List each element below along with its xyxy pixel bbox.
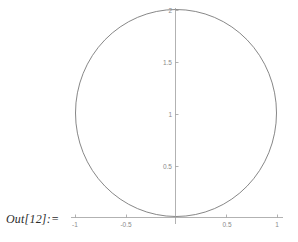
y-tick-label: 2	[168, 7, 172, 14]
plot-svg: -1 -0.5 0.5 1 0.5 1 1.5 2	[0, 0, 298, 242]
x-tick-label: -1	[72, 221, 78, 228]
x-tick-label: -0.5	[120, 221, 132, 228]
notebook-output-cell: Out[12]:= -1	[0, 0, 298, 242]
y-tick-label: 0.5	[163, 163, 172, 170]
x-tick-label: 1	[275, 221, 279, 228]
y-tick-label: 1.5	[163, 59, 172, 66]
y-axis-ticks	[176, 11, 179, 167]
circle-curve	[76, 10, 277, 217]
x-tick-label: 0.5	[222, 221, 231, 228]
x-axis-ticks	[76, 215, 278, 218]
y-tick-label: 1	[168, 111, 172, 118]
circle-plot-graphic: -1 -0.5 0.5 1 0.5 1 1.5 2	[0, 0, 298, 242]
